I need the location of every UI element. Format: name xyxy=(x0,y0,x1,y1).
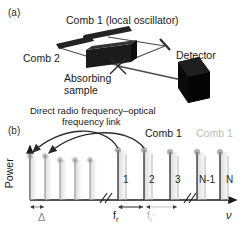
beam-splitter-to-detector xyxy=(118,66,182,80)
tooth-number-n-minus-1: N-1 xyxy=(199,174,215,185)
detector-icon xyxy=(178,57,210,103)
link-arrow-2 xyxy=(49,133,144,153)
rf-comb-group xyxy=(26,152,97,200)
detector-label: Detector xyxy=(176,50,216,61)
comb1-label: Comb 1 (local oscillator) xyxy=(66,15,179,26)
mirror-icon xyxy=(160,39,170,50)
panel-b-drawing xyxy=(0,104,245,231)
absorbing-sample-icon xyxy=(86,40,137,68)
comb2-source-icon xyxy=(56,36,94,49)
tooth-number-2: 2 xyxy=(149,174,155,185)
link-arrow-1 xyxy=(33,131,118,152)
panel-a-schematic: (a) Comb 1 (local oscillator) Comb 2 Abs… xyxy=(0,0,245,108)
comb2-label: Comb 2 xyxy=(23,53,60,64)
axis-break-left xyxy=(100,193,112,203)
absorbing-sample-label-line2: sample xyxy=(64,85,98,96)
panel-b-spectrum: Direct radio frequency–optical frequency… xyxy=(0,104,245,231)
tooth-number-3: 3 xyxy=(175,174,181,185)
absorbing-sample-label-line1: Absorbing xyxy=(64,73,111,84)
axis-break-right xyxy=(184,193,196,203)
tooth-number-n: N xyxy=(226,174,233,185)
figure-root: (a) Comb 1 (local oscillator) Comb 2 Abs… xyxy=(0,0,245,231)
panel-a-tag: (a) xyxy=(8,8,20,18)
tooth-number-1: 1 xyxy=(123,174,129,185)
